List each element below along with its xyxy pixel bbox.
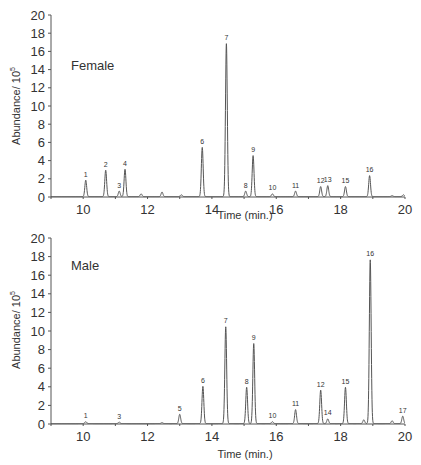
y-tick-label: 4	[38, 153, 45, 168]
y-tick-label: 0	[38, 417, 45, 432]
y-tick-label: 10	[31, 99, 45, 114]
peak-label: 9	[251, 146, 255, 153]
male-chromatogram-panel: 02468101214161820 101214161820 135678910…	[9, 231, 412, 461]
y-tick-label: 12	[31, 305, 45, 320]
peak-label: 7	[224, 317, 228, 324]
y-axis-label: Abundance/ 105	[9, 291, 22, 369]
peak-label: 2	[104, 161, 108, 168]
peak-label: 15	[342, 378, 350, 385]
peak-label: 3	[117, 413, 121, 420]
x-axis: 101214161820	[51, 424, 412, 444]
peak-label: 7	[224, 34, 228, 41]
panel-title: Female	[71, 58, 114, 73]
y-tick-label: 20	[31, 8, 45, 23]
peak-label: 12	[317, 381, 325, 388]
peak-label: 8	[245, 378, 249, 385]
y-tick-label: 20	[31, 231, 45, 246]
x-tick-label: 16	[269, 429, 283, 444]
female-chromatogram-panel: 02468101214161820 101214161820 123467891…	[9, 8, 412, 222]
y-axis-label: Abundance/ 105	[9, 67, 22, 145]
peak-label: 15	[342, 177, 350, 184]
peak-label: 10	[269, 184, 277, 191]
y-axis: 02468101214161820	[31, 8, 51, 205]
peak-label: 9	[252, 334, 256, 341]
peak-label: 11	[292, 400, 299, 407]
y-tick-label: 16	[31, 44, 45, 59]
y-tick-label: 6	[38, 361, 45, 376]
x-tick-label: 20	[398, 202, 412, 217]
y-tick-label: 10	[31, 324, 45, 339]
x-tick-label: 14	[205, 429, 219, 444]
y-tick-label: 6	[38, 135, 45, 150]
peak-label: 16	[366, 250, 374, 257]
x-tick-label: 12	[140, 429, 154, 444]
peak-label: 4	[123, 160, 127, 167]
x-axis-label: Time (min.)	[217, 448, 272, 460]
y-tick-label: 18	[31, 249, 45, 264]
x-axis-label: Time (min.)	[217, 209, 272, 221]
y-tick-label: 14	[31, 286, 45, 301]
x-tick-label: 18	[333, 429, 347, 444]
peak-label: 1	[84, 171, 88, 178]
y-tick-label: 2	[38, 398, 45, 413]
y-tick-label: 4	[38, 379, 45, 394]
chromatogram-trace	[51, 260, 405, 424]
y-tick-label: 2	[38, 171, 45, 186]
peak-labels: 135678910111214151617	[84, 250, 407, 419]
peak-labels: 12346789101112131516	[84, 34, 374, 191]
y-tick-label: 0	[38, 190, 45, 205]
peak-label: 6	[201, 377, 205, 384]
y-tick-label: 8	[38, 117, 45, 132]
peak-label: 5	[178, 405, 182, 412]
y-tick-label: 18	[31, 26, 45, 41]
x-tick-label: 12	[140, 202, 154, 217]
y-tick-label: 14	[31, 62, 45, 77]
y-tick-label: 12	[31, 80, 45, 95]
x-tick-label: 18	[333, 202, 347, 217]
peak-label: 1	[84, 412, 88, 419]
peak-label: 10	[269, 412, 277, 419]
y-axis: 02468101214161820	[31, 231, 51, 432]
peak-label: 17	[399, 407, 407, 414]
x-tick-label: 10	[76, 429, 90, 444]
y-tick-label: 16	[31, 268, 45, 283]
peak-label: 8	[244, 182, 248, 189]
y-tick-label: 8	[38, 342, 45, 357]
peak-label: 13	[324, 176, 332, 183]
peak-label: 11	[292, 182, 299, 189]
panel-title: Male	[71, 258, 99, 273]
peak-label: 16	[366, 166, 374, 173]
peak-label: 6	[200, 138, 204, 145]
peak-label: 14	[324, 409, 332, 416]
chromatogram-figure: 02468101214161820 101214161820 123467891…	[0, 0, 421, 465]
peak-label: 3	[117, 182, 121, 189]
x-tick-label: 10	[76, 202, 90, 217]
x-tick-label: 20	[398, 429, 412, 444]
